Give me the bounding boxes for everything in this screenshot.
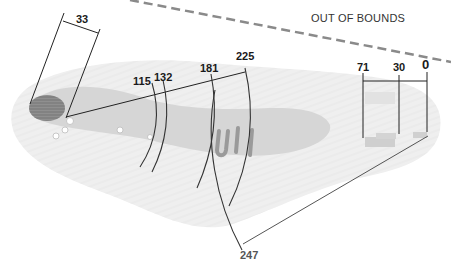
tee-marker (117, 127, 123, 133)
out-of-bounds-line (130, 0, 451, 62)
yardage-225: 225 (236, 51, 254, 62)
out-of-bounds-label: OUT OF BOUNDS (311, 12, 405, 24)
yardage-0: 0 (422, 58, 429, 71)
yardage-30: 30 (393, 62, 405, 73)
yardage-115: 115 (133, 76, 151, 87)
yardage-132: 132 (154, 72, 172, 83)
yardage-33: 33 (76, 14, 88, 25)
tee-marker (148, 135, 153, 140)
tee-marker (62, 127, 68, 133)
yardage-181: 181 (200, 63, 218, 74)
yardage-247: 247 (240, 250, 258, 261)
hole-diagram: OUT OF BOUNDS 33 115 132 181 225 71 30 0… (0, 0, 451, 270)
tee-marker (67, 118, 74, 125)
yardage-71: 71 (357, 62, 369, 73)
tee-marker (53, 133, 59, 139)
